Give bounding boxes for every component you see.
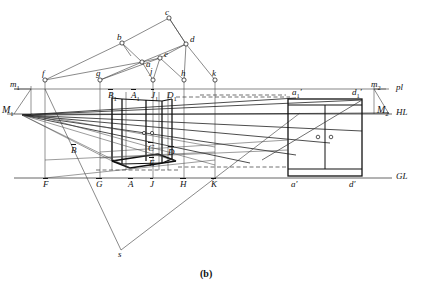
cabinet-elevation xyxy=(262,99,362,176)
marker-g xyxy=(98,78,102,82)
figure-canvas: m1 M1 m2 M2 pl HL GL a b c d e f g j h k… xyxy=(0,0,427,290)
label-K-bar: K xyxy=(211,180,217,189)
label-J-bar: J xyxy=(150,180,154,189)
label-A1: A1 xyxy=(131,91,140,102)
m1-diagonal xyxy=(14,89,31,114)
figure-caption: (b) xyxy=(200,268,212,279)
label-B1: B1 xyxy=(108,91,117,102)
guide-2 xyxy=(31,114,215,147)
label-c: c xyxy=(165,8,169,17)
label-D-bar: D xyxy=(168,148,175,157)
label-pl: pl xyxy=(396,83,403,92)
label-F-bar: F xyxy=(43,180,49,189)
s-ray-left xyxy=(45,89,121,250)
label-C-bar: C xyxy=(148,144,154,153)
ray-f-to-b xyxy=(45,43,122,80)
label-a-prime: a′ xyxy=(291,180,297,189)
label-E-bar: E xyxy=(149,159,155,168)
label-A-bar: A xyxy=(128,180,134,189)
label-GL: GL xyxy=(396,172,408,181)
marker-a xyxy=(140,60,144,64)
label-H-bar: H xyxy=(180,180,187,189)
label-station-point: s xyxy=(118,250,122,259)
label-d1-prime: d1′ xyxy=(352,88,362,99)
plan-point-markers xyxy=(43,16,217,82)
label-f: f xyxy=(42,69,45,78)
ray-g-to-a xyxy=(100,62,142,80)
label-J1: J1 xyxy=(151,91,158,102)
box-handle-right xyxy=(150,131,153,134)
label-d: d xyxy=(190,35,195,44)
label-D1: D1 xyxy=(167,91,177,102)
marker-f xyxy=(43,78,47,82)
reference-lines xyxy=(7,89,392,178)
marker-h xyxy=(182,78,186,82)
label-B-bar: B xyxy=(71,146,77,155)
vp-left-to-box-top xyxy=(22,100,362,115)
label-G-bar: G xyxy=(96,180,103,189)
marker-e xyxy=(158,56,162,60)
ray-k-to-d xyxy=(186,44,215,80)
label-m2: m2 xyxy=(371,80,381,91)
label-m1: m1 xyxy=(10,80,20,91)
ray-j-to-e xyxy=(153,58,160,80)
label-j: j xyxy=(150,67,153,76)
label-a1-prime: a1′ xyxy=(292,88,302,99)
plan-construction xyxy=(45,18,215,80)
label-b: b xyxy=(117,33,122,42)
elevation-handle-right xyxy=(329,135,333,139)
label-k: k xyxy=(212,69,216,78)
label-HL: HL xyxy=(396,108,408,117)
guide-8 xyxy=(100,140,288,152)
guide-3 xyxy=(45,160,215,178)
plan-edge-b-c xyxy=(122,18,169,43)
ray-f-to-a xyxy=(45,62,142,80)
label-M1: M1 xyxy=(2,105,14,118)
label-e: e xyxy=(164,50,168,59)
elevation-handle-left xyxy=(316,135,320,139)
diagram-svg xyxy=(0,0,427,290)
marker-j xyxy=(151,78,155,82)
vp-left-low-1 xyxy=(22,115,362,131)
ray-c-to-d xyxy=(169,18,186,44)
marker-k xyxy=(213,78,217,82)
label-g: g xyxy=(96,69,101,78)
plan-edge-a-b xyxy=(122,43,142,62)
label-M2: M2 xyxy=(377,105,389,118)
marker-d xyxy=(184,42,188,46)
label-h: h xyxy=(181,69,186,78)
label-d-prime: d′ xyxy=(349,180,355,189)
